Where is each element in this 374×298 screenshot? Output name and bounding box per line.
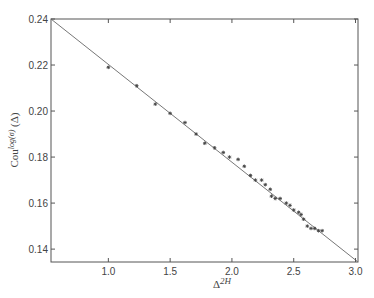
data-point [228,155,232,159]
data-point [278,197,282,201]
y-tick-label: 0.24 [29,14,49,25]
y-tick-label: 0.16 [29,198,49,209]
x-axis-label: Δ2H [213,276,232,290]
data-point [313,227,317,231]
y-axis-label: Coulog(σ) (Δ) [7,112,21,167]
data-point [309,227,313,231]
data-point [288,204,292,208]
y-tick-label: 0.14 [29,244,49,255]
data-point [285,201,289,205]
x-tick-label: 3.0 [349,266,363,277]
data-point [317,229,321,233]
data-point [306,224,310,228]
data-point [249,174,253,178]
data-point [302,217,306,221]
data-point [320,229,324,233]
data-point [168,112,172,116]
data-point [242,164,246,168]
x-axis-ticks: 1.01.52.02.53.0 [101,19,363,277]
scatter-chart: 1.01.52.02.53.0 0.140.160.180.200.220.24… [0,0,374,298]
y-tick-label: 0.22 [29,60,49,71]
data-point [236,158,240,162]
y-tick-label: 0.20 [29,106,49,117]
data-point [213,146,217,150]
data-points [107,66,324,233]
y-axis-ticks: 0.140.160.180.200.220.24 [29,14,358,255]
x-tick-label: 1.5 [163,266,177,277]
data-point [292,208,296,212]
data-point [203,141,207,145]
data-point [264,183,268,187]
data-point [260,178,264,182]
data-point [254,178,258,182]
fit-line [51,19,358,262]
x-tick-label: 1.0 [101,266,115,277]
x-tick-label: 2.5 [287,266,301,277]
y-tick-label: 0.18 [29,152,49,163]
regression-line [51,19,358,262]
data-point [221,151,225,155]
data-point [273,197,277,201]
data-point [107,66,111,70]
data-point [135,84,139,88]
data-point [268,187,272,191]
data-point [194,132,198,136]
